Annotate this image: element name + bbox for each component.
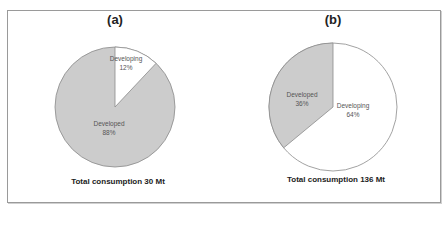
pie-a-developing-label: Developing — [110, 55, 143, 63]
pie-a: Developing 12% Developed 88% — [55, 47, 175, 167]
pie-a-developed-pct: 88% — [102, 129, 115, 136]
panel-b-caption: Total consumption 136 Mt — [256, 175, 416, 184]
pie-b-developed-label: Developed — [286, 91, 317, 99]
pie-b-developed-pct: 36% — [295, 100, 308, 107]
pie-a-developed-label: Developed — [93, 120, 124, 128]
pie-b: Developed 36% Developing 64% — [269, 43, 397, 171]
pie-b-developing-pct: 64% — [346, 111, 359, 118]
pie-b-developing-label: Developing — [337, 102, 370, 110]
panel-a-caption: Total consumption 30 Mt — [38, 177, 198, 186]
pie-a-developing-pct: 12% — [119, 64, 132, 71]
